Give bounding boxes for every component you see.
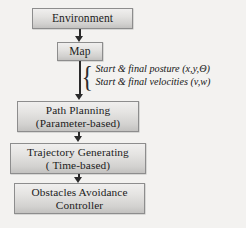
node-path-planning-line-1: Path Planning xyxy=(46,104,110,117)
node-trajectory-generating: Trajectory Generating ( Time-based) xyxy=(10,143,146,174)
curly-brace-icon: { xyxy=(81,64,93,87)
node-environment-line-1: Environment xyxy=(52,12,113,25)
node-path-planning: Path Planning (Parameter-based) xyxy=(17,101,139,132)
arrow-head-map-to-path-planning xyxy=(75,94,83,100)
edge-annotation-text: Start & final posture (x,y,Θ) Start & fi… xyxy=(95,62,210,89)
node-map-line-1: Map xyxy=(69,45,90,58)
node-obstacles-avoidance-controller: Obstacles Avoidance Controller xyxy=(14,183,145,214)
node-trajectory-generating-line-1: Trajectory Generating xyxy=(27,146,129,159)
node-obstacles-avoidance-line-1: Obstacles Avoidance xyxy=(31,186,127,199)
node-path-planning-line-2: (Parameter-based) xyxy=(36,117,120,130)
node-obstacles-avoidance-line-2: Controller xyxy=(56,199,103,212)
edge-annotation: { Start & final posture (x,y,Θ) Start & … xyxy=(80,62,210,89)
node-environment: Environment xyxy=(32,8,133,29)
edge-annotation-line-2: Start & final velocities (v,w) xyxy=(95,75,210,88)
node-trajectory-generating-line-2: ( Time-based) xyxy=(46,159,110,172)
node-map: Map xyxy=(57,42,103,61)
edge-annotation-line-1: Start & final posture (x,y,Θ) xyxy=(95,62,210,75)
flowchart-diagram: Environment Map { Start & final posture … xyxy=(0,0,246,228)
arrow-head-path-planning-to-trajectory xyxy=(74,136,82,142)
